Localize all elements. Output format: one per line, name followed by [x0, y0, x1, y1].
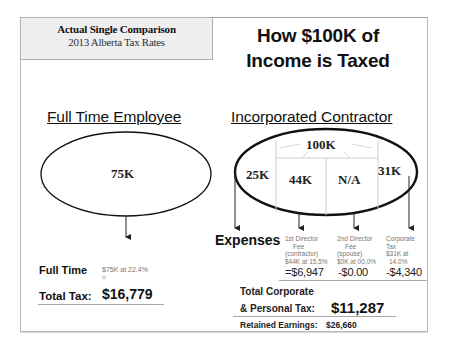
employee-total-tax: $16,779	[102, 286, 153, 302]
director2-line4: $0K at 00.0%	[337, 258, 376, 266]
corporate-tax-details: Corporate Tax $31K at 14.0%	[386, 235, 415, 265]
employee-calc-equals: =	[102, 274, 148, 282]
contractor-total-underline	[233, 316, 396, 317]
employee-calc-rate: $75K at 22.4%	[102, 266, 148, 274]
corporate-tax-amount: -$4,340	[386, 266, 422, 278]
total-tax-label: Total Tax:	[39, 290, 92, 302]
expenses-label: Expenses	[215, 232, 280, 248]
segment-director2-value: N/A	[338, 172, 360, 188]
director2-details: 2nd Director Fee (spouse) $0K at 00.0%	[337, 235, 376, 265]
corporate-line1: Corporate	[386, 235, 415, 243]
director1-line1: 1st Director	[285, 235, 328, 243]
personal-tax-label: & Personal Tax:	[240, 303, 315, 314]
director1-line4: $44K at 15.5%	[285, 258, 328, 266]
expenses-divider	[279, 280, 427, 281]
director2-line1: 2nd Director	[337, 235, 376, 243]
contractor-total-tax: $11,287	[331, 299, 384, 316]
director2-line2: Fee	[337, 243, 376, 251]
corporate-line2: Tax	[386, 243, 415, 251]
segment-corporate-value: 31K	[378, 163, 401, 179]
employee-calc-note: $75K at 22.4% =	[102, 266, 148, 282]
retained-earnings-value: $26,660	[326, 320, 357, 330]
full-time-label: Full Time	[39, 264, 87, 276]
director2-amount: -$0.00	[338, 266, 368, 278]
director1-line2: Fee	[285, 243, 328, 251]
corporate-line3: $31K at	[386, 250, 415, 258]
director2-line3: (spouse)	[337, 250, 376, 258]
segment-expenses-value: 25K	[246, 167, 269, 183]
total-corporate-label: Total Corporate	[240, 286, 314, 297]
director1-amount: =$6,947	[285, 266, 324, 278]
employee-total-underline	[38, 304, 164, 305]
retained-earnings-label: Retained Earnings:	[240, 320, 317, 330]
director1-line3: (contractor)	[285, 250, 328, 258]
segment-director1-value: 44K	[289, 172, 312, 188]
corporate-line4: 14.0%	[386, 258, 415, 266]
contractor-oval-total: 100K	[306, 137, 336, 153]
employee-oval-value: 75K	[111, 166, 134, 182]
director1-details: 1st Director Fee (contractor) $44K at 15…	[285, 235, 328, 265]
